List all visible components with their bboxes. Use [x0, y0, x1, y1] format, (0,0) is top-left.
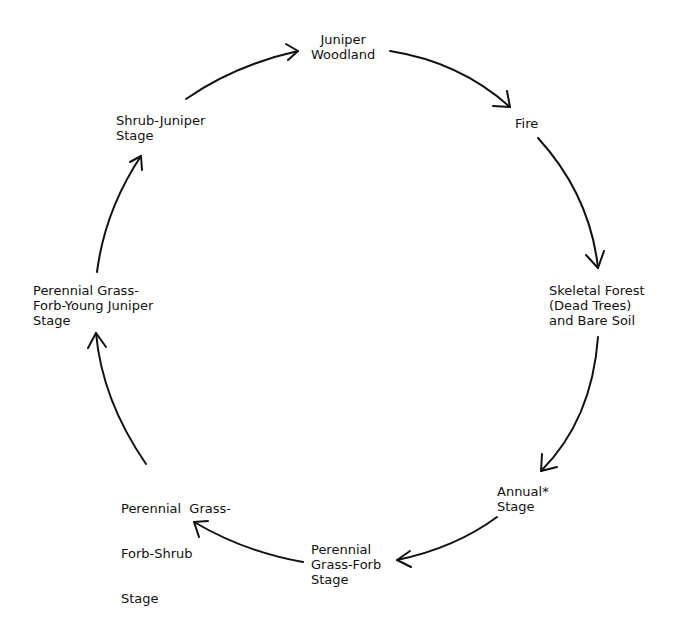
node-skeletal-forest: Skeletal Forest (Dead Trees) and Bare So…	[549, 283, 645, 328]
arrow-annual-to-perennial-grass-forb	[397, 517, 497, 567]
node-label-line: Perennial	[311, 542, 381, 557]
node-perennial-grass-forb-young-juniper: Perennial Grass- Forb-Young Juniper Stag…	[33, 283, 153, 328]
node-label-line: Juniper	[311, 32, 375, 47]
node-shrub-juniper: Shrub-Juniper Stage	[116, 113, 205, 143]
node-label-line: Shrub-Juniper	[116, 113, 205, 128]
node-label-line: Stage	[116, 128, 205, 143]
node-label-line: Skeletal Forest	[549, 283, 645, 298]
arrow-juniper-woodland-to-fire	[390, 51, 510, 107]
arrow-fire-to-skeletal-forest	[538, 138, 604, 268]
node-annual-stage: Annual* Stage	[497, 484, 549, 514]
node-label-line: Forb-Shrub	[121, 546, 231, 561]
arrow-shrub-juniper-to-woodland	[186, 44, 298, 99]
node-label-line: Perennial Grass-	[121, 501, 231, 516]
node-perennial-grass-forb-shrub: Perennial Grass- Forb-Shrub Stage	[121, 471, 231, 618]
node-label-line: Woodland	[311, 47, 375, 62]
node-label-line: Perennial Grass-	[33, 283, 153, 298]
node-label-line: Stage	[497, 499, 549, 514]
arrow-shrub-to-young-juniper	[88, 333, 146, 464]
node-label-line: Stage	[121, 591, 231, 606]
node-perennial-grass-forb: Perennial Grass-Forb Stage	[311, 542, 381, 587]
node-label-line: Stage	[33, 313, 153, 328]
arrow-young-juniper-to-shrub-juniper	[97, 156, 142, 272]
arrow-skeletal-forest-to-annual	[541, 337, 598, 471]
node-label-line: Annual*	[497, 484, 549, 499]
node-label-line: Fire	[515, 116, 538, 131]
node-label-line: (Dead Trees)	[549, 298, 645, 313]
node-label-line: Stage	[311, 572, 381, 587]
node-label-line: Grass-Forb	[311, 557, 381, 572]
node-label-line: and Bare Soil	[549, 313, 645, 328]
succession-cycle-diagram: Juniper Woodland Fire Skeletal Forest (D…	[0, 0, 678, 618]
node-label-line: Forb-Young Juniper	[33, 298, 153, 313]
node-fire: Fire	[515, 116, 538, 131]
node-juniper-woodland: Juniper Woodland	[311, 32, 375, 62]
